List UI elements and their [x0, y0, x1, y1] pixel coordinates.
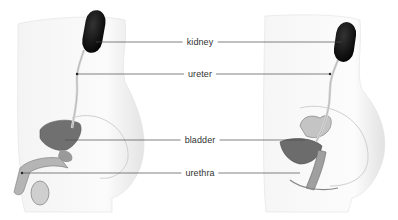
female-torso-outline	[263, 15, 384, 212]
label-bladder: bladder	[181, 135, 220, 145]
female-figure	[263, 15, 384, 212]
male-testis-shape	[31, 181, 49, 205]
label-ureter: ureter	[184, 69, 216, 79]
label-kidney: kidney	[183, 37, 218, 47]
label-urethra: urethra	[181, 168, 218, 178]
urinary-system-diagram	[0, 0, 398, 220]
male-figure	[14, 9, 144, 212]
